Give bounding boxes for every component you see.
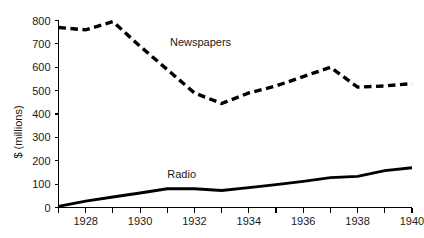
- chart-container: 0100200300400500600700800 19281930193219…: [0, 0, 424, 238]
- y-tick-label: 600: [32, 61, 50, 73]
- x-axis-ticks: 1928193019321934193619381940: [59, 208, 424, 227]
- data-series-group: [59, 22, 413, 207]
- line-chart: 0100200300400500600700800 19281930193219…: [0, 0, 424, 238]
- x-tick-label: 1932: [182, 215, 206, 227]
- x-tick-label: 1936: [291, 215, 315, 227]
- y-tick-label: 800: [32, 15, 50, 27]
- series-label-newspapers: Newspapers: [170, 36, 232, 48]
- y-tick-label: 0: [44, 202, 50, 214]
- series-annotations: NewspapersRadio: [167, 36, 231, 180]
- y-tick-label: 200: [32, 155, 50, 167]
- y-tick-label: 300: [32, 131, 50, 143]
- y-tick-label: 700: [32, 38, 50, 50]
- series-line-radio: [59, 168, 413, 207]
- series-label-radio: Radio: [167, 168, 196, 180]
- x-tick-label: 1940: [400, 215, 424, 227]
- x-tick-label: 1934: [237, 215, 261, 227]
- y-axis-title: $ (millions): [12, 105, 24, 158]
- series-line-newspapers: [59, 22, 413, 104]
- x-tick-label: 1930: [128, 215, 152, 227]
- y-tick-label: 500: [32, 85, 50, 97]
- x-tick-label: 1938: [345, 215, 369, 227]
- x-tick-label: 1928: [73, 215, 97, 227]
- y-tick-label: 100: [32, 178, 50, 190]
- y-tick-label: 400: [32, 108, 50, 120]
- y-axis-ticks: 0100200300400500600700800: [32, 15, 58, 214]
